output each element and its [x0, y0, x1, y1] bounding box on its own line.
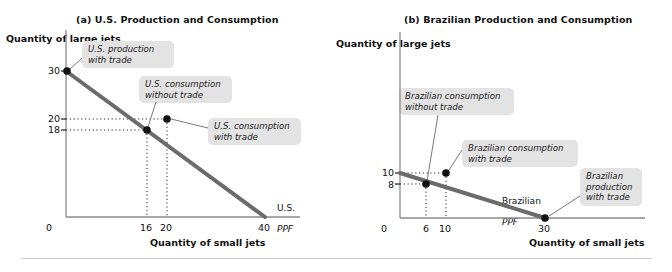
point-us-consumption-with-trade — [163, 115, 171, 123]
panel-a-leader-consumption-with-trade — [171, 119, 208, 128]
point-brazilian-consumption-without-trade — [422, 180, 430, 188]
panel-a-ppf-line — [66, 71, 265, 217]
panel-a-leader-production-with-trade — [69, 58, 82, 70]
panel-b-ppf-line — [400, 173, 545, 218]
figure-bottom-rule — [22, 258, 652, 259]
panel-b-leader-consumption-without-trade — [427, 115, 438, 181]
figure-container: (a) U.S. Production and Consumption Quan… — [0, 0, 672, 272]
panel-b-leader-consumption-with-trade — [449, 150, 462, 170]
plot-vector-layer — [0, 0, 672, 272]
point-us-consumption-without-trade — [143, 126, 151, 134]
point-brazilian-production-with-trade — [541, 214, 549, 222]
point-us-production-with-trade — [63, 67, 71, 75]
panel-a-leader-consumption-without-trade — [148, 102, 156, 127]
point-brazilian-consumption-with-trade — [442, 169, 450, 177]
panel-b-leader-production-with-trade — [549, 196, 580, 216]
